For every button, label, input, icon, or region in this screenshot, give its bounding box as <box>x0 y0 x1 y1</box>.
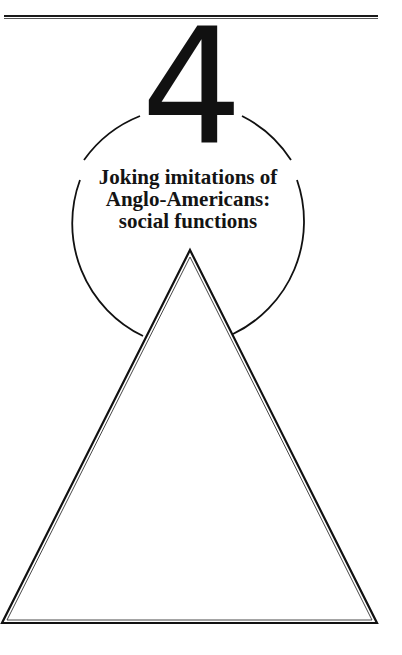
circle-arc-top-left <box>84 116 140 160</box>
circle-arc-top-right <box>242 116 291 160</box>
chapter-title-page: 4 Joking imitations of Anglo-Americans: … <box>0 0 402 655</box>
chapter-title-line-1: Joking imitations of <box>60 166 316 188</box>
chapter-title: Joking imitations of Anglo-Americans: so… <box>60 166 316 232</box>
chapter-title-line-3: social functions <box>60 210 316 232</box>
chapter-number: 4 <box>137 8 247 158</box>
chapter-title-line-2: Anglo-Americans: <box>60 188 316 210</box>
triangle-outer-outline <box>2 250 377 623</box>
